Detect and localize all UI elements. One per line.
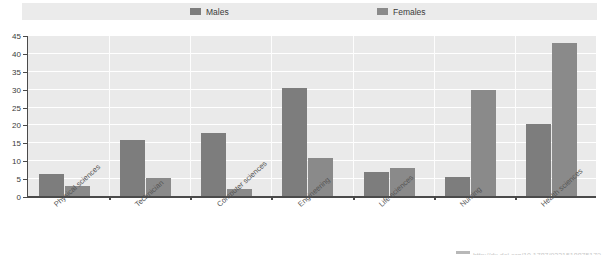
footer-marker-icon [456,251,470,254]
y-axis-tick-label: 5 [1,175,21,184]
bar-chart: 051015202530354045 [0,28,603,208]
legend-swatch-females [377,8,388,15]
bar-group [109,36,190,197]
legend-swatch-males [190,8,201,15]
bar-males [282,88,307,197]
y-axis-tick-label: 20 [1,121,21,130]
y-axis-tick-label: 15 [1,139,21,148]
y-axis-tick-label: 40 [1,49,21,58]
legend-item-males: Males [190,7,229,17]
y-axis-tick-label: 35 [1,67,21,76]
source-footer: http://dx.doi.org/10.1787/923151887517? [0,243,603,255]
y-axis-tick [23,54,28,55]
bar-group [434,36,515,197]
plot-area [28,36,596,197]
y-axis-tick [23,143,28,144]
y-axis-tick [23,36,28,37]
y-axis-tick [23,161,28,162]
footer-doi-link[interactable]: http://dx.doi.org/10.1787/923151887517? [473,252,601,255]
y-axis-tick [23,72,28,73]
y-axis-tick [23,197,28,198]
y-axis-labels: 051015202530354045 [0,36,21,197]
legend-item-females: Females [377,7,426,17]
y-axis-tick [23,125,28,126]
chart-legend: Males Females [22,3,597,20]
bar-males [526,124,551,197]
y-axis-tick-label: 30 [1,85,21,94]
bar-group [353,36,434,197]
y-axis-tick [23,179,28,180]
bar-females [471,90,496,197]
y-axis-tick-label: 25 [1,103,21,112]
bar-males [120,140,145,197]
y-axis-tick [23,90,28,91]
y-axis-tick [23,108,28,109]
legend-label-males: Males [206,7,229,17]
bar-group [271,36,352,197]
legend-label-females: Females [393,7,426,17]
y-axis-tick-label: 45 [1,32,21,41]
bar-males [201,133,226,197]
y-axis-tick-label: 10 [1,157,21,166]
